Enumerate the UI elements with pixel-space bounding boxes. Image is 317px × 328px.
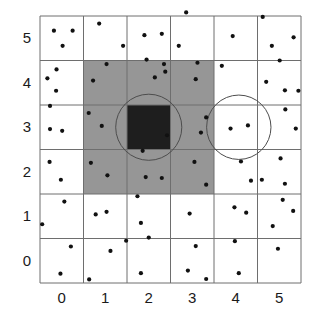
data-point [233,239,237,243]
data-point [220,64,224,68]
data-point [60,129,64,133]
data-point [271,224,275,228]
data-point [204,115,208,119]
data-point [177,44,181,48]
data-point [278,156,282,160]
y-tick-label: 0 [23,252,31,269]
data-point [204,183,208,187]
x-tick-label: 1 [101,289,109,306]
data-point [160,32,164,36]
data-point [232,205,236,209]
y-tick-label: 3 [23,118,31,135]
x-tick-label: 4 [232,289,240,306]
data-point [204,277,208,281]
data-point [71,29,75,33]
data-point [52,29,56,33]
x-tick-label: 0 [58,289,66,306]
data-point [91,78,95,82]
data-point [94,212,98,216]
data-point [291,209,295,213]
data-point [278,58,282,62]
data-point [237,271,241,275]
data-point [165,133,169,137]
data-point [276,247,280,251]
data-point [135,194,139,198]
y-tick-label: 1 [23,207,31,224]
data-point [87,111,91,115]
data-point [104,210,108,214]
data-point [244,211,248,215]
data-point [246,123,250,127]
data-point [54,67,58,71]
data-point [45,76,49,80]
data-point [199,130,203,134]
data-point [54,89,58,93]
dark-centre-cell [127,105,171,150]
data-point [69,244,73,248]
data-point [249,179,253,183]
data-point [283,88,287,92]
data-point [89,161,93,165]
data-point [141,149,145,153]
data-point [58,272,62,276]
data-point [144,175,148,179]
data-point [40,222,44,226]
data-point [61,44,65,48]
data-point [87,277,91,281]
data-point [283,182,287,186]
data-point [261,15,265,19]
data-point [153,75,157,79]
y-tick-label: 4 [23,74,31,91]
data-point [162,62,166,66]
y-tick-label: 5 [23,29,31,46]
data-point [121,44,125,48]
data-point [62,199,66,203]
data-point [231,34,235,38]
data-point [188,211,192,215]
data-point [283,107,287,111]
data-point [192,160,196,164]
data-point [59,178,63,182]
data-point [186,268,190,272]
data-point [48,127,52,131]
data-point [294,126,298,130]
data-point [194,77,198,81]
data-point [281,198,285,202]
data-point [142,33,146,37]
data-point [239,159,243,163]
data-point [104,62,108,66]
data-point [124,239,128,243]
data-point [264,80,268,84]
data-point [139,271,143,275]
data-point [228,126,232,130]
data-point [105,173,109,177]
data-point [139,221,143,225]
data-point [97,21,101,25]
data-point [108,249,112,253]
data-point [47,160,51,164]
data-point [260,178,264,182]
data-point [100,124,104,128]
data-point [144,58,148,62]
data-point [270,44,274,48]
data-point [194,244,198,248]
data-point [163,70,167,74]
data-point [184,10,188,14]
x-tick-label: 3 [188,289,196,306]
data-point [296,89,300,93]
plot-svg: 012345 012345 [0,0,317,328]
data-point [48,104,52,108]
data-point [195,61,199,65]
scatter-grid-figure: 012345 012345 [0,0,317,328]
data-point [160,176,164,180]
data-point [147,236,151,240]
y-tick-label: 2 [23,163,31,180]
x-tick-label: 2 [145,289,153,306]
x-tick-label: 5 [275,289,283,306]
data-point [292,35,296,39]
